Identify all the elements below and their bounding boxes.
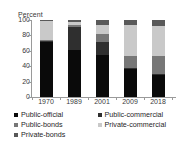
legend-item[interactable]: Private-bonds xyxy=(14,130,98,140)
bar-slot xyxy=(60,20,88,97)
y-tick-label: 20 xyxy=(0,78,30,85)
legend-swatch-icon xyxy=(98,123,102,127)
x-tick-label: 2018 xyxy=(144,98,172,105)
y-tick-label: 60 xyxy=(0,47,30,54)
bar-segment xyxy=(40,42,53,97)
y-tick-mark xyxy=(28,35,31,36)
bar-segment xyxy=(152,75,165,97)
x-tick-label: 2001 xyxy=(88,98,116,105)
bar-segment xyxy=(96,55,109,97)
x-tick-mark xyxy=(116,97,117,100)
y-tick-mark xyxy=(28,66,31,67)
bar-segment xyxy=(68,27,81,50)
y-tick-label: 100 xyxy=(0,16,30,23)
bar-segment xyxy=(124,25,137,57)
legend-item[interactable]: Public-commercial xyxy=(98,110,182,120)
x-tick-label: 1970 xyxy=(32,98,60,105)
y-tick-label: 0 xyxy=(0,93,30,100)
stacked-bar[interactable] xyxy=(152,20,165,97)
x-tick-mark xyxy=(172,97,173,100)
legend-item[interactable]: Public-official xyxy=(14,110,98,120)
bar-segment xyxy=(124,69,137,97)
legend-swatch-icon xyxy=(14,133,18,137)
bar-segment xyxy=(40,21,53,40)
legend-label: Private-bonds xyxy=(21,130,65,140)
legend-label: Public-bonds xyxy=(21,120,63,130)
stacked-bar[interactable] xyxy=(68,20,81,97)
legend-swatch-icon xyxy=(14,113,18,117)
legend-label: Private-commercial xyxy=(105,120,167,130)
y-tick-mark xyxy=(28,97,31,98)
legend-item[interactable]: Private-commercial xyxy=(98,120,182,130)
legend-label: Public-commercial xyxy=(105,110,164,120)
stacked-bar[interactable] xyxy=(124,20,137,97)
stacked-bar[interactable] xyxy=(96,20,109,97)
bar-segment xyxy=(152,26,165,56)
y-tick-label: 80 xyxy=(0,31,30,38)
legend-item[interactable]: Public-bonds xyxy=(14,120,98,130)
bar-segment xyxy=(152,56,165,74)
bar-slot xyxy=(116,20,144,97)
legend-label: Public-official xyxy=(21,110,63,120)
legend-swatch-icon xyxy=(98,113,102,117)
y-tick-mark xyxy=(28,82,31,83)
x-tick-label: 1989 xyxy=(60,98,88,105)
bar-segment xyxy=(96,42,109,56)
bar-slot xyxy=(88,20,116,97)
bar-segment xyxy=(96,25,109,34)
bar-segment xyxy=(68,50,81,97)
y-tick-label: 40 xyxy=(0,62,30,69)
legend-swatch-icon xyxy=(14,123,18,127)
x-tick-mark xyxy=(88,97,89,100)
x-tick-label: 2009 xyxy=(116,98,144,105)
x-axis-labels: 19701989200120092018 xyxy=(32,98,172,105)
stacked-bar-chart: Percent 100806040200 1970198920012009201… xyxy=(0,0,181,141)
chart-legend: Public-officialPublic-commercialPublic-b… xyxy=(14,110,181,140)
x-tick-mark xyxy=(32,97,33,100)
y-tick-mark xyxy=(28,51,31,52)
bar-segment xyxy=(124,56,137,68)
bar-group xyxy=(32,20,172,97)
bar-slot xyxy=(32,20,60,97)
bar-slot xyxy=(144,20,172,97)
y-tick-mark xyxy=(28,20,31,21)
bar-segment xyxy=(96,34,109,42)
x-tick-mark xyxy=(60,97,61,100)
x-tick-mark xyxy=(144,97,145,100)
stacked-bar[interactable] xyxy=(40,20,53,97)
